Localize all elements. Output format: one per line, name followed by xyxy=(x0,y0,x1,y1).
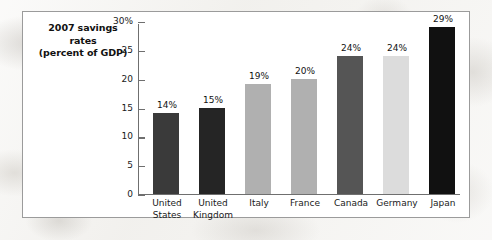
bar[interactable] xyxy=(153,113,179,194)
y-axis-tick-label: 15 xyxy=(122,102,133,115)
x-axis-category-label: France xyxy=(279,198,331,210)
bar-group[interactable]: 29% xyxy=(422,21,464,194)
bar-group[interactable]: 24% xyxy=(330,21,372,194)
bar-group[interactable]: 20% xyxy=(284,21,326,194)
category-label-line-1: Italy xyxy=(249,198,269,208)
category-label-line-1: United xyxy=(152,198,182,208)
bar[interactable] xyxy=(291,79,317,194)
bar-value-label: 19% xyxy=(238,71,280,82)
bar-group[interactable]: 14% xyxy=(146,21,188,194)
bar[interactable] xyxy=(337,56,363,194)
category-label-line-2: Kingdom xyxy=(187,210,239,222)
x-axis-category-label: Italy xyxy=(233,198,285,210)
bar-value-label: 29% xyxy=(422,14,464,25)
bar[interactable] xyxy=(245,84,271,194)
y-axis-tick-label: 25 xyxy=(122,44,133,57)
bar-value-label: 14% xyxy=(146,100,188,111)
x-axis-category-label: UnitedStates xyxy=(141,198,193,221)
bar[interactable] xyxy=(199,108,225,195)
plot-area: 30%2520151050 14%15%19%20%24%24%29% xyxy=(138,21,460,196)
bar-value-label: 24% xyxy=(330,43,372,54)
category-label-line-1: Germany xyxy=(376,198,417,208)
category-label-line-1: United xyxy=(198,198,228,208)
bar-group[interactable]: 19% xyxy=(238,21,280,194)
y-axis-tick-label: 10 xyxy=(122,130,133,143)
x-axis-category-labels: UnitedStatesUnitedKingdomItalyFranceCana… xyxy=(138,198,460,224)
y-axis-tick-label: 0 xyxy=(127,188,133,201)
bar-value-label: 15% xyxy=(192,95,234,106)
category-label-line-1: France xyxy=(290,198,320,208)
bar-group[interactable]: 24% xyxy=(376,21,418,194)
y-axis-tick-label: 30% xyxy=(113,15,133,28)
bar[interactable] xyxy=(383,56,409,194)
x-axis-category-label: UnitedKingdom xyxy=(187,198,239,221)
category-label-line-1: Canada xyxy=(334,198,368,208)
y-axis-tick-label: 5 xyxy=(127,159,133,172)
bar-group[interactable]: 15% xyxy=(192,21,234,194)
chart-title-line-3: (percent of GDP) xyxy=(39,47,127,58)
chart-title-line-1: 2007 savings xyxy=(48,22,117,33)
bars-layer: 14%15%19%20%24%24%29% xyxy=(138,21,460,195)
y-axis-tick-mark xyxy=(138,195,145,196)
category-label-line-2: States xyxy=(141,210,193,222)
chart-title-line-2: rates xyxy=(69,35,96,46)
bar-value-label: 24% xyxy=(376,43,418,54)
x-axis-category-label: Germany xyxy=(371,198,423,210)
x-axis-category-label: Canada xyxy=(325,198,377,210)
category-label-line-1: Japan xyxy=(430,198,455,208)
bar[interactable] xyxy=(429,27,455,194)
figure-panel: 2007 savings rates (percent of GDP) 30%2… xyxy=(22,11,470,218)
bar-value-label: 20% xyxy=(284,66,326,77)
x-axis-category-label: Japan xyxy=(417,198,469,210)
y-axis-tick-label: 20 xyxy=(122,73,133,86)
